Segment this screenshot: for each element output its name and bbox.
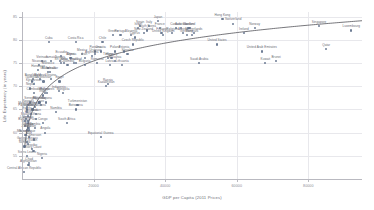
scatter-point-label: Nicaragua [32, 60, 47, 63]
scatter-point-label: Chile [99, 37, 106, 40]
scatter-point [126, 53, 128, 55]
gridline-horizontal [22, 109, 362, 110]
scatter-point [45, 101, 47, 103]
y-tick-mark [19, 86, 22, 87]
scatter-point [143, 32, 145, 34]
scatter-point-label: Tajikistan [25, 76, 38, 79]
scatter-point [32, 150, 34, 152]
gridline-horizontal [22, 17, 362, 18]
scatter-point-label: Switzerland [225, 18, 242, 21]
scatter-point-label: Romania [91, 58, 104, 61]
scatter-point [232, 23, 234, 25]
y-axis-line [22, 12, 23, 179]
scatter-point-label: Hong Kong [214, 14, 230, 17]
scatter-point-label: Saudi Arabia [190, 58, 208, 61]
gridline-horizontal [22, 133, 362, 134]
scatter-point-label: United Arab Emirates [247, 46, 277, 49]
scatter-point-label: Ecuador [55, 51, 67, 54]
scatter-point [100, 136, 102, 138]
scatter-point [48, 41, 50, 43]
scatter-point-label: Cuba [45, 37, 53, 40]
x-tick-label: 80000 [303, 184, 314, 188]
scatter-point [162, 34, 164, 36]
scatter-point-label: United States [207, 39, 226, 42]
scatter-point [33, 138, 35, 140]
scatter-point-label: Croatia [96, 46, 106, 49]
scatter-point-label: Luxembourg [342, 25, 360, 28]
scatter-point [186, 34, 188, 36]
y-tick-label: 85 [13, 15, 17, 19]
scatter-point-label: Russia [103, 79, 113, 82]
x-axis-label: GDP per Capita (2011 Prices) [162, 195, 221, 200]
scatter-point-label: Central African Republic [7, 167, 41, 170]
scatter-point [254, 27, 256, 29]
scatter-point-label: Lithuania [116, 60, 129, 63]
scatter-point-label: Costa Rica [68, 37, 84, 40]
scatter-point-label: Latvia [105, 60, 114, 63]
scatter-point [41, 60, 43, 62]
y-tick-label: 75 [13, 61, 17, 65]
scatter-point-label: Namibia [50, 106, 62, 109]
scatter-point [112, 34, 114, 36]
scatter-point-label: Brunei [271, 55, 280, 58]
scatter-point-label: Equatorial Guinea [88, 132, 114, 135]
scatter-point [100, 50, 102, 52]
scatter-point [191, 34, 193, 36]
y-tick-label: 70 [13, 84, 17, 88]
scatter-point [193, 32, 195, 34]
y-tick-label: 65 [13, 107, 17, 111]
gridline-vertical [237, 12, 238, 179]
scatter-point-label: Qatar [322, 44, 330, 47]
x-tick-mark [94, 179, 95, 182]
scatter-point-label: Finland [156, 28, 167, 31]
scatter-point [66, 64, 68, 66]
plot-area: AfghanistanCentral African RepublicChadN… [22, 12, 362, 179]
scatter-point-label: Singapore [312, 21, 327, 24]
y-tick-label: 80 [13, 38, 17, 42]
scatter-point-label: France [155, 23, 165, 26]
gridline-horizontal [22, 40, 362, 41]
scatter-point [84, 64, 86, 66]
scatter-point-label: Sudan [32, 109, 41, 112]
scatter-point-label: Vietnam [36, 55, 48, 58]
scatter-point-label: South Africa [58, 118, 75, 121]
scatter-point [33, 83, 35, 85]
scatter-point-label: Iceland [185, 23, 195, 26]
y-tick-mark [19, 109, 22, 110]
scatter-point [75, 41, 77, 43]
x-tick-mark [308, 179, 309, 182]
scatter-point [23, 145, 25, 147]
scatter-point [31, 80, 33, 82]
x-axis-line [22, 179, 362, 180]
scatter-point [40, 104, 42, 106]
scatter-point [42, 80, 44, 82]
x-tick-label: 60000 [231, 184, 242, 188]
scatter-point [23, 171, 25, 173]
scatter-point [55, 111, 57, 113]
scatter-point [59, 60, 61, 62]
x-tick-mark [165, 179, 166, 182]
scatter-point [25, 118, 27, 120]
scatter-point-label: Mongolia [57, 88, 70, 91]
scatter-point [119, 34, 121, 36]
scatter-point [33, 92, 35, 94]
gridline-horizontal [22, 86, 362, 87]
scatter-point-label: Bulgaria [79, 60, 91, 63]
scatter-point [101, 41, 103, 43]
y-tick-label: 55 [13, 154, 17, 158]
scatter-point [325, 48, 327, 50]
scatter-point [221, 18, 223, 20]
scatter-point [76, 104, 78, 106]
gridline-vertical [94, 12, 95, 179]
scatter-point-label: Egypt [55, 76, 63, 79]
y-tick-mark [19, 40, 22, 41]
scatter-point-label: Argentina [85, 51, 99, 54]
scatter-point [27, 127, 29, 129]
scatter-point-label: Greece [108, 30, 118, 33]
scatter-point-label: Israel [134, 23, 142, 26]
scatter-point [31, 148, 33, 150]
y-tick-mark [19, 156, 22, 157]
scatter-point-label: Angola [40, 127, 50, 130]
scatter-point [261, 50, 263, 52]
scatter-point-label: Gambia [22, 123, 33, 126]
